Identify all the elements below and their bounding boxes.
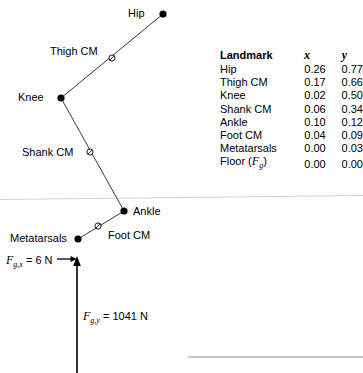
force-y-subscript: g,y [90,316,100,325]
label-force-y: Fg,y = 1041 N [83,310,148,327]
label-knee: Knee [18,92,44,103]
header-y: y [326,50,363,64]
header-x: x [289,50,326,64]
force-y-value: = 1041 N [100,310,148,322]
figure-container: Hip Thigh CM Knee Shank CM Ankle Metatar… [0,0,363,373]
cell-y: 0.00 [326,156,363,173]
label-metatarsals: Metatarsals [10,233,67,244]
metatarsals-marker [74,235,81,242]
foot-cm-marker [95,223,101,229]
header-landmark: Landmark [220,50,289,64]
label-thigh-cm: Thigh CM [50,46,98,57]
label-hip: Hip [128,8,145,19]
table-row: Shank CM0.060.34 [220,104,363,117]
hip-marker [159,10,166,17]
cell-x: 0.00 [289,156,326,173]
ankle-marker [120,207,127,214]
table-row: Knee0.020.50 [220,90,363,103]
cell-landmark: Knee [220,90,289,103]
label-ankle: Ankle [133,206,161,217]
force-x-subscript: g,x [13,260,23,269]
floor-reference-line [0,196,363,200]
label-force-x: Fg,x = 6 N [6,254,53,271]
cell-y: 0.34 [326,104,363,117]
force-x-value: = 6 N [23,254,53,266]
cell-x: 0.00 [289,143,326,156]
cell-y: 0.50 [326,90,363,103]
thigh-cm-marker [109,55,115,61]
table-body: Hip0.260.77Thigh CM0.170.66Knee0.020.50S… [220,64,363,174]
table-row: Floor (Fg)0.000.00 [220,156,363,173]
cell-x: 0.02 [289,90,326,103]
force-x-arrow [57,256,77,262]
cell-landmark: Floor (Fg) [220,156,289,173]
cell-landmark: Shank CM [220,104,289,117]
cell-landmark-subscript: g [259,162,263,171]
table-header-row: Landmark x y [220,50,363,64]
landmark-coordinate-table: Landmark x y Hip0.260.77Thigh CM0.170.66… [220,50,363,174]
label-shank-cm: Shank CM [22,147,73,158]
cell-y: 0.03 [326,143,363,156]
cell-x: 0.06 [289,104,326,117]
shank-cm-marker [87,149,93,155]
force-y-arrow [73,256,81,373]
knee-marker [57,94,64,101]
label-foot-cm: Foot CM [108,230,150,241]
